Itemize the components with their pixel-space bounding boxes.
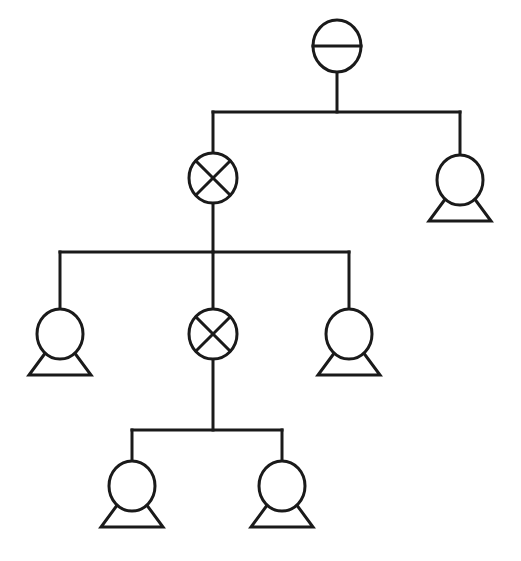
tree-diagram	[0, 0, 521, 561]
circle-horizontal-bar-node	[313, 20, 361, 72]
circle-x-node	[189, 153, 237, 203]
diagram-symbols	[29, 20, 491, 527]
connector-lines	[60, 70, 460, 462]
pump-icon	[437, 155, 483, 205]
circle-x-node	[189, 309, 237, 359]
pump-icon	[37, 309, 83, 359]
pump-node	[101, 461, 163, 527]
pump-node	[29, 309, 91, 375]
pump-icon	[109, 461, 155, 511]
pump-node	[429, 155, 491, 221]
pump-node	[318, 309, 380, 375]
pump-node	[251, 461, 313, 527]
pump-icon	[259, 461, 305, 511]
pump-icon	[326, 309, 372, 359]
